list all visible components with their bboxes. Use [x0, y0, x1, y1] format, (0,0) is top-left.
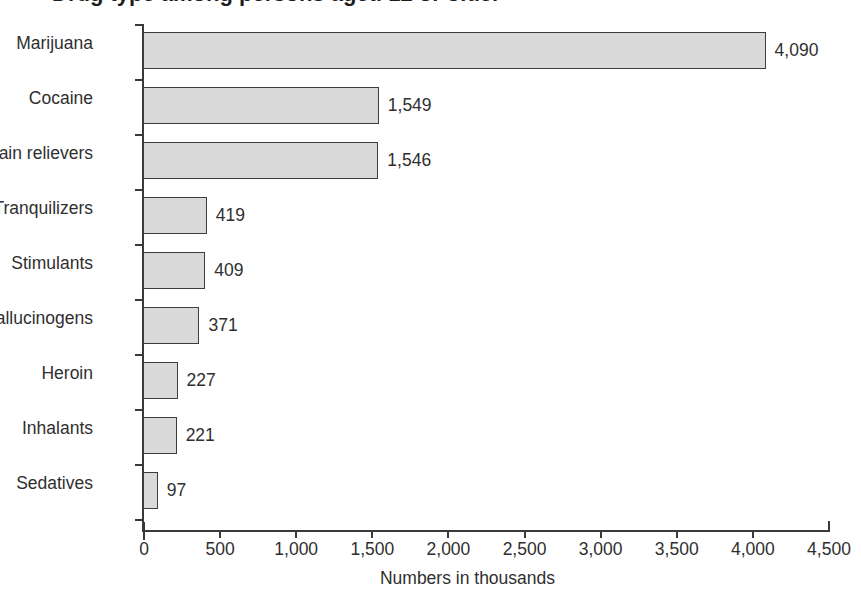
bar	[143, 87, 379, 124]
x-axis-tick	[828, 521, 830, 532]
y-axis-tick	[135, 79, 143, 81]
bar-category-label: Heroin	[0, 354, 93, 393]
bar-value-label: 1,549	[379, 87, 432, 124]
bar	[143, 197, 207, 234]
bar-value-label: 4,090	[766, 32, 819, 69]
x-axis-tick	[447, 530, 449, 538]
bar	[143, 252, 205, 289]
x-axis-title: Numbers in thousands	[0, 568, 861, 589]
y-axis-tick	[135, 409, 143, 411]
y-axis-tick	[135, 519, 143, 521]
bar-value-label: 409	[205, 252, 243, 289]
bar-row: Tranquilizers419	[143, 189, 828, 244]
x-axis-tick	[676, 530, 678, 538]
bar-value-label: 371	[199, 307, 237, 344]
bar-value-label: 97	[158, 472, 186, 509]
bar-chart: Marijuana4,090Cocaine1,549Pain relievers…	[0, 0, 861, 607]
y-axis-tick	[135, 464, 143, 466]
y-axis-tick	[135, 244, 143, 246]
x-axis-tick	[295, 530, 297, 538]
y-axis-tick	[135, 189, 143, 191]
y-axis-tick	[135, 299, 143, 301]
x-axis-tick	[143, 522, 145, 540]
bar-row: Sedatives97	[143, 464, 828, 519]
bar	[143, 362, 178, 399]
plot-area: Marijuana4,090Cocaine1,549Pain relievers…	[143, 24, 828, 531]
x-axis-tick	[371, 530, 373, 538]
x-axis-tick	[600, 530, 602, 538]
bar-category-label: Inhalants	[0, 409, 93, 448]
bar	[143, 307, 199, 344]
bar-value-label: 419	[207, 197, 245, 234]
bar-row: Cocaine1,549	[143, 79, 828, 134]
bar-value-label: 1,546	[378, 142, 431, 179]
bar-row: Stimulants409	[143, 244, 828, 299]
bar-category-label: Marijuana	[0, 24, 93, 63]
x-axis-tick	[219, 530, 221, 538]
bar-category-label: Cocaine	[0, 79, 93, 118]
bar-category-label: Stimulants	[0, 244, 93, 283]
y-axis-tick	[135, 24, 143, 26]
bar-value-label: 227	[178, 362, 216, 399]
bar-row: Pain relievers1,546	[143, 134, 828, 189]
x-axis-title-label: Numbers in thousands	[380, 568, 555, 588]
bar	[143, 417, 177, 454]
bar-row: Hallucinogens371	[143, 299, 828, 354]
y-axis-tick	[135, 134, 143, 136]
bar	[143, 32, 766, 69]
bar-row: Marijuana4,090	[143, 24, 828, 79]
x-axis-tick	[524, 530, 526, 538]
bar	[143, 472, 158, 509]
bar-category-label: Hallucinogens	[0, 299, 93, 338]
bar-category-label: Pain relievers	[0, 134, 93, 173]
bar-category-label: Tranquilizers	[0, 189, 93, 228]
bar	[143, 142, 378, 179]
bar-row: Heroin227	[143, 354, 828, 409]
x-axis-tick	[752, 530, 754, 538]
bar-row: Inhalants221	[143, 409, 828, 464]
x-axis-tick-label: 4,500	[769, 539, 861, 560]
bar-value-label: 221	[177, 417, 215, 454]
y-axis-tick	[135, 354, 143, 356]
bar-category-label: Sedatives	[0, 464, 93, 503]
